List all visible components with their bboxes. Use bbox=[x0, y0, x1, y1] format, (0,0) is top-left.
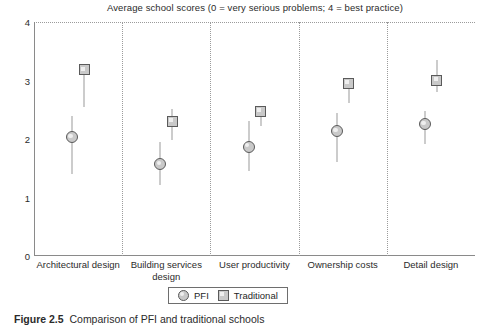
y-tick-label-2: 2 bbox=[18, 134, 30, 145]
circle-marker-icon bbox=[331, 125, 343, 137]
gridline-top bbox=[34, 22, 475, 23]
circle-marker-icon bbox=[419, 118, 431, 130]
legend-label-traditional: Traditional bbox=[234, 290, 278, 301]
y-axis-line bbox=[34, 22, 35, 256]
y-tick-label-0: 0 bbox=[18, 251, 30, 262]
circle-marker-icon bbox=[66, 131, 78, 143]
category-divider-2 bbox=[210, 22, 211, 256]
x-axis-label-0: Architectural design bbox=[34, 259, 122, 271]
square-marker-icon bbox=[255, 106, 266, 117]
x-axis-label-2: User productivity bbox=[210, 259, 298, 271]
category-divider-4 bbox=[387, 22, 388, 256]
y-tick-label-4: 4 bbox=[18, 17, 30, 28]
circle-marker-icon bbox=[154, 158, 166, 170]
category-divider-1 bbox=[122, 22, 123, 256]
square-marker-icon bbox=[79, 64, 90, 75]
square-marker-icon bbox=[343, 78, 354, 89]
figure-caption: Figure 2.5 Comparison of PFI and traditi… bbox=[14, 313, 474, 325]
x-axis-label-4: Detail design bbox=[387, 259, 475, 271]
square-marker-icon bbox=[218, 290, 229, 301]
caption-text: Comparison of PFI and traditional school… bbox=[69, 313, 264, 325]
error-bar-pfi-0 bbox=[72, 116, 73, 175]
square-marker-icon bbox=[431, 75, 442, 86]
plot-area: 01234 bbox=[34, 22, 475, 256]
legend-item-traditional: Traditional bbox=[218, 290, 278, 301]
figure-container: Average school scores (0 = very serious … bbox=[0, 0, 485, 326]
circle-marker-icon bbox=[243, 141, 255, 153]
x-axis-label-1: Building services design bbox=[122, 259, 210, 282]
y-tick-label-1: 1 bbox=[18, 192, 30, 203]
chart-legend: PFI Traditional bbox=[168, 287, 288, 304]
x-axis-labels: Architectural designBuilding services de… bbox=[34, 259, 475, 289]
chart-title: Average school scores (0 = very serious … bbox=[35, 2, 475, 13]
x-axis-label-3: Ownership costs bbox=[299, 259, 387, 271]
legend-label-pfi: PFI bbox=[194, 290, 209, 301]
x-axis-line bbox=[34, 255, 475, 256]
legend-item-pfi: PFI bbox=[178, 290, 209, 301]
error-bar-pfi-3 bbox=[336, 113, 337, 163]
square-marker-icon bbox=[167, 116, 178, 127]
y-tick-label-3: 3 bbox=[18, 75, 30, 86]
caption-number: Figure 2.5 bbox=[14, 313, 64, 325]
category-divider-3 bbox=[299, 22, 300, 256]
circle-marker-icon bbox=[178, 290, 189, 301]
